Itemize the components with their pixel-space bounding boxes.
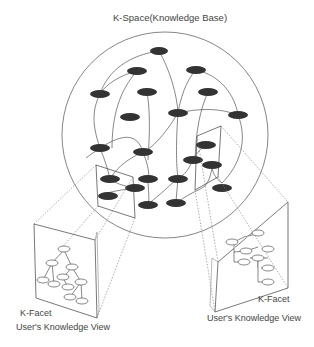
node	[166, 199, 186, 207]
right-view-label: User's Knowledge View	[207, 313, 301, 323]
node	[150, 47, 168, 55]
node	[168, 109, 188, 117]
left-k-facet-label: K-Facet	[20, 308, 52, 318]
node	[138, 175, 158, 183]
node	[138, 201, 158, 209]
node	[196, 141, 216, 149]
node	[90, 144, 110, 152]
node	[186, 66, 206, 74]
left-k-facet-panel	[34, 224, 99, 318]
node	[98, 192, 118, 200]
node	[202, 161, 222, 169]
left-facet-tree	[37, 246, 88, 304]
node	[183, 156, 203, 164]
node	[120, 113, 140, 121]
node	[228, 111, 248, 119]
right-k-facet-label: K-Facet	[258, 294, 290, 304]
node	[127, 67, 147, 75]
node	[198, 88, 218, 96]
left-view-label: User's Knowledge View	[16, 322, 110, 332]
left-inner-facet	[96, 165, 135, 218]
node	[137, 88, 157, 96]
node	[168, 175, 188, 183]
right-facet-tree	[226, 230, 274, 285]
k-space-title: K-Space(Knowledge Base)	[113, 12, 227, 23]
node	[100, 175, 120, 183]
node	[212, 184, 232, 192]
node	[90, 90, 110, 98]
node	[133, 148, 153, 156]
